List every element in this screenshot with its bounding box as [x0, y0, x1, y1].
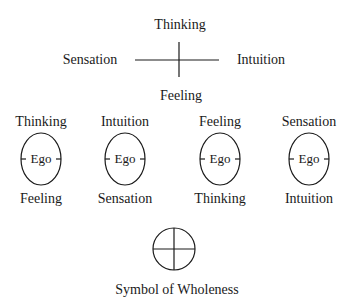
ego-3-bottom-label: Thinking [194, 191, 245, 207]
ego-1-top-label: Thinking [15, 114, 66, 130]
cross-left-label: Sensation [63, 52, 117, 68]
ego-2-bottom-label: Sensation [98, 191, 152, 207]
cross-top-label: Thinking [154, 17, 205, 33]
cross-right-label: Intuition [237, 52, 285, 68]
ego-1-bottom-label: Feeling [20, 191, 62, 207]
ego-2-center-label: Ego [114, 152, 137, 166]
ego-3-center-label: Ego [209, 152, 232, 166]
cross-bottom-label: Feeling [160, 88, 202, 104]
circle-cross-icon [153, 228, 195, 270]
ego-4-top-label: Sensation [282, 114, 336, 130]
wholeness-label: Symbol of Wholeness [115, 282, 238, 298]
ego-4-center-label: Ego [298, 152, 321, 166]
ego-1-center-label: Ego [30, 152, 53, 166]
ego-3-top-label: Feeling [199, 114, 241, 130]
ego-4-bottom-label: Intuition [285, 191, 333, 207]
ego-2-top-label: Intuition [101, 114, 149, 130]
